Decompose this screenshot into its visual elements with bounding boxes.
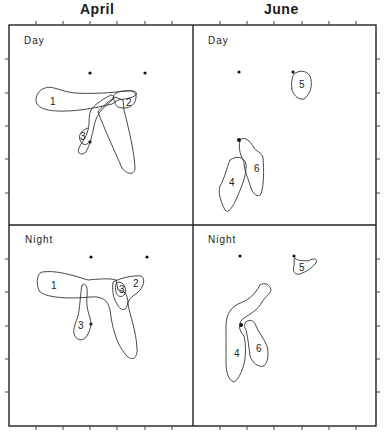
panel-label-june-day: Day — [208, 35, 229, 46]
panel-label-april-night: Night — [25, 234, 53, 245]
location-point — [143, 71, 146, 74]
location-point — [292, 254, 295, 257]
region-label: 5 — [299, 79, 305, 90]
region-label: 4 — [229, 177, 235, 188]
location-point — [145, 255, 148, 258]
location-point — [237, 70, 240, 73]
region-label: 2 — [133, 278, 139, 289]
panel-april-day — [36, 71, 147, 173]
region-label: 4 — [234, 348, 240, 359]
region-label: 3 — [119, 284, 125, 295]
panel-april-night — [37, 255, 148, 358]
region-label: 3 — [78, 320, 84, 331]
home-range-6 — [239, 138, 263, 195]
location-point — [291, 70, 294, 73]
location-point — [238, 254, 241, 257]
panel-june-night — [226, 254, 316, 382]
home-range-5 — [293, 258, 316, 274]
region-label: 3 — [80, 131, 86, 142]
home-range-3 — [78, 95, 113, 154]
region-label: 1 — [51, 280, 57, 291]
home-range-2 — [113, 91, 136, 108]
region-label: 6 — [254, 163, 260, 174]
home-range-diagram: 1 2 3 5 6 4 1 3 2 3 5 4 6 — [0, 0, 384, 436]
region-label: 2 — [126, 97, 132, 108]
location-point — [88, 71, 91, 74]
location-point — [89, 255, 92, 258]
panel-label-june-night: Night — [208, 234, 236, 245]
panel-label-april-day: Day — [24, 35, 45, 46]
region-label: 1 — [50, 96, 56, 107]
region-labels: 1 2 3 5 6 4 1 3 2 3 5 4 6 — [50, 79, 305, 359]
region-label: 6 — [256, 343, 262, 354]
home-range-3 — [74, 284, 91, 340]
home-range-4 — [226, 284, 271, 382]
region-label: 5 — [299, 262, 305, 273]
panel-frame — [9, 25, 376, 426]
panel-june-day — [219, 70, 311, 211]
